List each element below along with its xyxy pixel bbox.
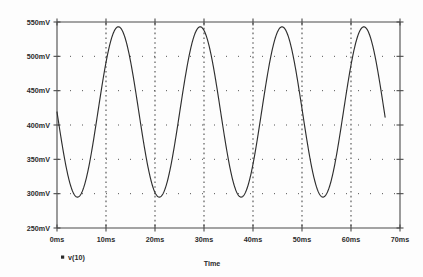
waveform-chart: 250mV300mV350mV400mV450mV500mV550mV 0ms1…	[0, 0, 423, 277]
waveform-plot-window: 250mV300mV350mV400mV450mV500mV550mV 0ms1…	[0, 0, 423, 277]
y-tick-label-500: 500mV	[27, 52, 50, 61]
y-tick-label-550: 550mV	[27, 18, 50, 27]
x-axis-title: Time	[204, 259, 221, 268]
y-tick-label-350: 350mV	[27, 155, 50, 164]
x-tick-label-20: 20ms	[146, 235, 164, 244]
y-tick-label-300: 300mV	[27, 189, 50, 198]
legend-marker-square-icon	[61, 256, 64, 259]
y-tick-label-250: 250mV	[27, 224, 50, 233]
x-tick-label-40: 40ms	[244, 235, 262, 244]
legend-label-v10[interactable]: v(10)	[68, 253, 85, 262]
y-tick-label-400: 400mV	[27, 121, 50, 130]
y-tick-label-450: 450mV	[27, 86, 50, 95]
chart-legend[interactable]: v(10)	[61, 253, 85, 262]
y-axis-tick-labels: 250mV300mV350mV400mV450mV500mV550mV	[27, 18, 50, 233]
x-tick-label-50: 50ms	[293, 235, 311, 244]
x-tick-label-0: 0ms	[50, 235, 64, 244]
x-tick-label-60: 60ms	[342, 235, 360, 244]
horizontal-gridlines	[58, 56, 399, 193]
x-tick-label-70: 70ms	[391, 235, 409, 244]
x-tick-label-10: 10ms	[97, 235, 115, 244]
x-axis-tick-labels: 0ms10ms20ms30ms40ms50ms60ms70ms	[50, 235, 409, 244]
x-tick-label-30: 30ms	[195, 235, 213, 244]
